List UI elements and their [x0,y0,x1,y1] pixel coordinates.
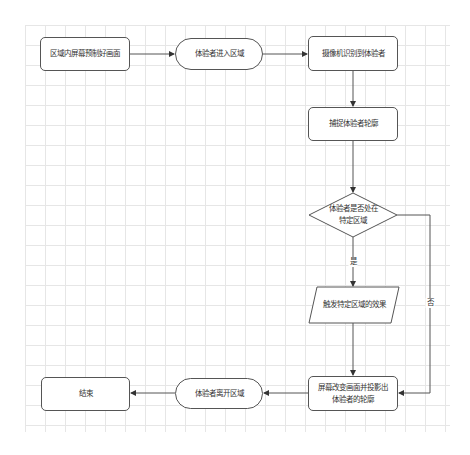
trigger-effect-label: 触发特定区域的效果 [323,299,386,311]
start-node-label: 区域内屏幕预制好画面 [50,48,120,60]
capture-outline-label: 捕捉体验者轮廓 [329,118,378,130]
start-node[interactable]: 区域内屏幕预制好画面 [40,37,130,71]
screen-change-node[interactable]: 屏幕改变画面并投影出 体验者的轮廓 [308,376,398,411]
enter-area-terminal[interactable]: 体验者进入区域 [175,38,263,70]
enter-area-label: 体验者进入区域 [195,48,244,60]
screen-change-label-line1: 屏幕改变画面并投影出 [318,382,388,394]
decision-node[interactable]: 体验者是否处在 特定区域 [309,193,397,237]
camera-detect-label: 摄像机识别到体验者 [322,48,385,60]
no-edge-label: 否 [426,298,435,308]
camera-detect-node[interactable]: 摄像机识别到体验者 [308,36,398,71]
leave-area-terminal[interactable]: 体验者离开区域 [175,378,263,409]
leave-area-label: 体验者离开区域 [195,388,244,400]
trigger-effect-node[interactable]: 触发特定区域的效果 [309,287,399,323]
screen-change-label-line2: 体验者的轮廓 [332,394,374,406]
yes-edge-label: 是 [349,257,358,267]
end-node-label: 结束 [79,388,93,400]
capture-outline-node[interactable]: 捕捉体验者轮廓 [308,107,398,141]
decision-label-line2: 特定区域 [339,215,367,227]
decision-label-line1: 体验者是否处在 [329,203,378,215]
end-node[interactable]: 结束 [41,377,130,411]
